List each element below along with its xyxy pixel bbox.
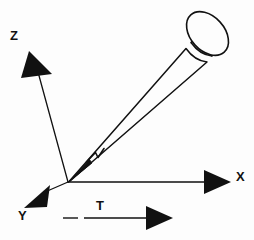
z-axis <box>21 51 68 182</box>
stylus-pen <box>68 4 237 183</box>
z-axis-label: Z <box>10 29 18 42</box>
z-axis-arrowhead <box>21 51 52 78</box>
pen-cap-face <box>178 4 237 64</box>
pen-tip <box>68 160 92 183</box>
y-axis-label: Y <box>18 209 27 222</box>
x-axis <box>68 170 231 194</box>
z-axis-shaft <box>38 72 68 182</box>
pen-coordinate-axes-diagram: Z Y X T <box>0 0 254 240</box>
t-vector-arrowhead <box>146 206 173 230</box>
t-vector-label: T <box>96 199 104 212</box>
x-axis-label: X <box>236 170 245 183</box>
y-axis <box>24 182 68 208</box>
t-vector <box>63 206 173 230</box>
diagram-canvas <box>0 0 254 240</box>
x-axis-arrowhead <box>204 170 231 194</box>
y-axis-arrowhead <box>24 185 50 208</box>
